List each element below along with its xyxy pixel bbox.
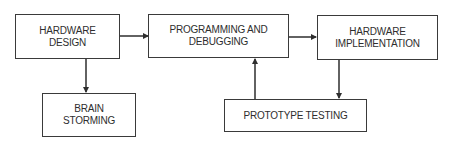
- node-label: PROTOTYPE TESTING: [243, 110, 347, 122]
- flowchart-canvas: HARDWARE DESIGN PROGRAMMING AND DEBUGGIN…: [0, 0, 452, 144]
- node-label: HARDWARE IMPLEMENTATION: [335, 26, 420, 50]
- node-label: PROGRAMMING AND DEBUGGING: [169, 24, 267, 48]
- node-hardware-design: HARDWARE DESIGN: [15, 14, 120, 59]
- node-prototype-testing: PROTOTYPE TESTING: [224, 99, 367, 132]
- node-brain-storming: BRAIN STORMING: [42, 93, 136, 137]
- node-label: HARDWARE DESIGN: [39, 25, 95, 49]
- node-label: BRAIN STORMING: [63, 103, 115, 127]
- node-hardware-implementation: HARDWARE IMPLEMENTATION: [317, 15, 438, 60]
- node-programming-debugging: PROGRAMMING AND DEBUGGING: [148, 14, 289, 58]
